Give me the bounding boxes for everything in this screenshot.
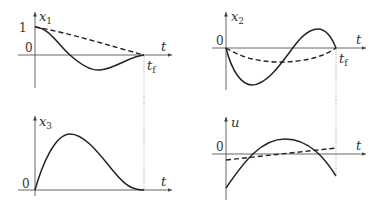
x2-tick-zero: 0 xyxy=(216,34,224,48)
x1-tick-one: 1 xyxy=(19,21,27,35)
x2-dashed-curve xyxy=(226,48,336,62)
panel-x3: x3 0 t xyxy=(18,103,172,196)
x1-solid-curve xyxy=(35,27,144,70)
panel-u: u 0 t xyxy=(212,103,366,200)
x1-tf-label: tf xyxy=(147,58,156,75)
x3-t-label: t xyxy=(161,174,167,189)
x3-tick-zero: 0 xyxy=(22,177,30,191)
x2-tf-label: tf xyxy=(339,51,348,68)
state-trajectory-diagram: x1 1 0 t tf x2 0 t tf x3 0 t u 0 t xyxy=(0,0,380,206)
x1-t-label: t xyxy=(161,39,167,54)
x1-dashed-curve xyxy=(35,27,144,55)
panel-x2: x2 0 t tf xyxy=(212,9,366,90)
x1-tick-zero: 0 xyxy=(25,41,33,55)
u-tick-zero: 0 xyxy=(216,140,224,154)
x1-axis-label: x1 xyxy=(39,9,52,26)
x3-axis-label: x3 xyxy=(39,114,52,131)
x2-axis-label: x2 xyxy=(231,9,244,26)
u-axis-label: u xyxy=(231,115,239,130)
u-t-label: t xyxy=(356,138,362,153)
x2-solid-curve xyxy=(226,29,336,85)
x2-t-label: t xyxy=(356,32,362,47)
x3-solid-curve xyxy=(35,134,144,190)
u-solid-curve xyxy=(226,139,336,188)
panel-x1: x1 1 0 t tf xyxy=(18,9,172,88)
